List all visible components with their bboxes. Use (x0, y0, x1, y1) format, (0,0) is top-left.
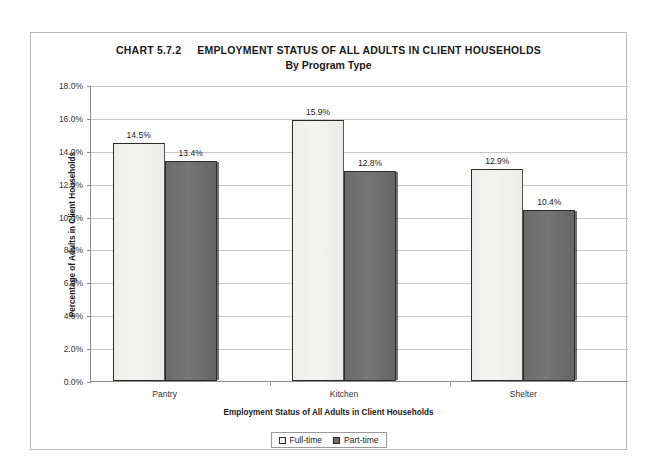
y-axis-tick (87, 382, 91, 383)
bar-pantry-full-time[interactable]: 14.5% (113, 143, 165, 381)
plot-area: 14.5%13.4%15.9%12.8%12.9%10.4% PantryKit… (90, 86, 628, 382)
gridline (91, 152, 628, 153)
legend-item-part-time[interactable]: Part-time (333, 435, 378, 445)
bar-pantry-part-time[interactable]: 13.4% (165, 161, 217, 381)
chart-subtitle: By Program Type (31, 59, 626, 71)
bar-value-label: 15.9% (306, 107, 330, 117)
y-axis-tick (87, 119, 91, 120)
y-axis-tick-label: 4.0% (64, 311, 83, 321)
y-axis-tick-label: 2.0% (64, 344, 83, 354)
legend-label-full-time: Full-time (289, 435, 322, 445)
y-axis-tick-label: 18.0% (59, 81, 83, 91)
bar-value-label: 10.4% (537, 197, 561, 207)
legend-swatch-part-time-icon (333, 437, 340, 444)
bar-value-label: 13.4% (179, 148, 203, 158)
y-axis-tick (87, 349, 91, 350)
category-label-kitchen: Kitchen (330, 389, 358, 399)
y-axis-tick (87, 86, 91, 87)
chart-title-block: CHART 5.7.2EMPLOYMENT STATUS OF ALL ADUL… (31, 44, 626, 71)
bar-kitchen-part-time[interactable]: 12.8% (344, 171, 396, 381)
y-axis-tick (87, 283, 91, 284)
chart-legend: Full-time Part-time (270, 432, 386, 448)
bar-shelter-part-time[interactable]: 10.4% (523, 210, 575, 381)
y-axis-tick-label: 8.0% (64, 245, 83, 255)
legend-swatch-full-time-icon (278, 437, 285, 444)
category-tick (450, 381, 451, 386)
x-axis-title: Employment Status of All Adults in Clien… (31, 408, 626, 417)
y-axis-tick-label: 10.0% (59, 213, 83, 223)
chart-number: CHART 5.7.2 (116, 44, 181, 56)
bar-value-label: 14.5% (127, 130, 151, 140)
bar-value-label: 12.8% (358, 158, 382, 168)
chart-title-main: EMPLOYMENT STATUS OF ALL ADULTS IN CLIEN… (197, 44, 541, 56)
y-axis-tick (87, 185, 91, 186)
y-axis-tick-label: 16.0% (59, 114, 83, 124)
y-axis-tick (87, 250, 91, 251)
chart-title: CHART 5.7.2EMPLOYMENT STATUS OF ALL ADUL… (31, 44, 626, 56)
y-axis-tick-label: 12.0% (59, 180, 83, 190)
y-axis-tick (87, 218, 91, 219)
category-tick (270, 381, 271, 386)
y-axis-tick-label: 0.0% (64, 377, 83, 387)
bar-kitchen-full-time[interactable]: 15.9% (292, 120, 344, 381)
legend-label-part-time: Part-time (344, 435, 378, 445)
y-axis-tick (87, 152, 91, 153)
category-label-pantry: Pantry (152, 389, 177, 399)
plot-wrap: 14.5%13.4%15.9%12.8%12.9%10.4% PantryKit… (90, 86, 628, 382)
bar-value-label: 12.9% (485, 156, 509, 166)
bar-shelter-full-time[interactable]: 12.9% (471, 169, 523, 381)
gridline (91, 86, 628, 87)
chart-frame: CHART 5.7.2EMPLOYMENT STATUS OF ALL ADUL… (30, 32, 627, 450)
gridline (91, 119, 628, 120)
y-axis-tick-label: 14.0% (59, 147, 83, 157)
legend-item-full-time[interactable]: Full-time (278, 435, 322, 445)
y-axis-tick (87, 316, 91, 317)
y-axis-tick-label: 6.0% (64, 278, 83, 288)
category-label-shelter: Shelter (510, 389, 537, 399)
y-axis-title: Percentage of Adults in Client Household… (66, 86, 80, 382)
